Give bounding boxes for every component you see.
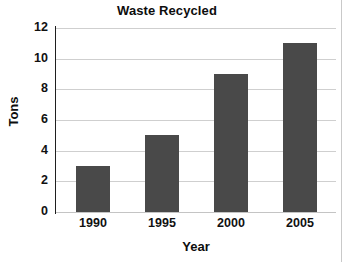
y-axis-tick-label: 2 [14,173,48,187]
y-axis-tick-label: 4 [14,143,48,157]
bar [283,43,317,212]
x-axis-tick-label: 1995 [129,216,195,230]
y-axis-tick-label: 10 [14,51,48,65]
bar [145,135,179,212]
gridline [56,212,336,213]
x-axis-tick-label: 1990 [60,216,126,230]
y-axis-tick-label: 0 [14,204,48,218]
bar-chart-figure: Waste Recycled Tons 024681012 1990199520… [0,0,348,262]
page-border [341,0,342,262]
y-axis-tick-label: 8 [14,81,48,95]
bar [76,166,110,212]
x-axis-title: Year [56,239,336,254]
x-axis-tick-label: 2005 [267,216,333,230]
gridline [56,28,336,29]
bar [214,74,248,212]
chart-title: Waste Recycled [0,3,348,18]
y-axis-tick-label: 6 [14,112,48,126]
x-axis-tick-label: 2000 [198,216,264,230]
plot-area [56,28,336,212]
y-axis-tick-label: 12 [14,20,48,34]
